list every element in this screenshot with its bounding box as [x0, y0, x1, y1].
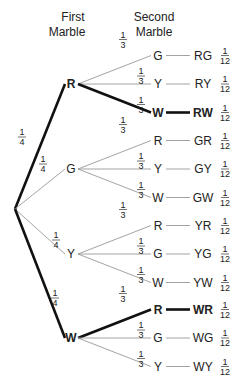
- outcome-prob-gr-numerator: 1: [222, 131, 227, 141]
- outcome-prob-rw-numerator: 1: [222, 103, 227, 113]
- second-prob-ry-numerator: 1: [138, 66, 143, 76]
- second-prob-rg-numerator: 1: [120, 30, 125, 40]
- second-node-rw: W: [152, 106, 164, 120]
- second-prob-ry-denominator: 3: [138, 76, 143, 86]
- outcome-prob-gr-denominator: 12: [220, 141, 230, 151]
- first-prob-2-denominator: 4: [53, 240, 58, 250]
- second-node-wy: Y: [154, 360, 162, 374]
- branch-first-w: [15, 209, 65, 338]
- first-prob-1-numerator: 1: [40, 154, 45, 164]
- first-prob-1-denominator: 4: [40, 164, 45, 174]
- outcome-prob-ry-denominator: 12: [220, 84, 230, 94]
- second-prob-gr-numerator: 1: [120, 115, 125, 125]
- second-prob-yr-denominator: 3: [120, 210, 125, 220]
- second-prob-yr-numerator: 1: [120, 200, 125, 210]
- outcome-prob-ry-numerator: 1: [222, 74, 227, 84]
- second-node-wr: R: [154, 303, 163, 317]
- second-prob-yg-numerator: 1: [138, 236, 143, 246]
- second-prob-gr-denominator: 3: [120, 125, 125, 135]
- second-prob-yg-denominator: 3: [138, 246, 143, 256]
- second-node-rg: G: [153, 49, 162, 63]
- outcome-prob-yg-numerator: 1: [222, 244, 227, 254]
- outcome-rg: RG: [194, 49, 212, 63]
- labels: R14GRG11213YRY11213WRW11213G14RGR11213YG…: [18, 30, 230, 377]
- first-node-y: Y: [67, 247, 75, 261]
- second-node-yg: G: [153, 247, 162, 261]
- first-prob-0-denominator: 4: [19, 137, 24, 147]
- second-prob-yw-denominator: 3: [138, 275, 143, 285]
- outcome-prob-gy-denominator: 12: [220, 169, 230, 179]
- outcome-wg: WG: [193, 331, 214, 345]
- first-prob-3-numerator: 1: [52, 288, 57, 298]
- outcome-prob-yw-denominator: 12: [220, 283, 230, 293]
- second-node-ry: Y: [154, 77, 162, 91]
- first-node-g: G: [66, 162, 75, 176]
- outcome-prob-gw-denominator: 12: [220, 198, 230, 208]
- outcome-wr: WR: [193, 303, 213, 317]
- probability-tree-diagram: First Marble Second Marble R14GRG11213YR…: [0, 0, 238, 388]
- outcome-yr: YR: [195, 219, 212, 233]
- second-prob-wg-numerator: 1: [138, 320, 143, 330]
- header-first-line1: First: [61, 10, 85, 24]
- outcome-prob-wy-numerator: 1: [222, 357, 227, 367]
- second-prob-gw-denominator: 3: [138, 190, 143, 200]
- outcome-gy: GY: [194, 162, 211, 176]
- second-prob-yw-numerator: 1: [138, 265, 143, 275]
- outcome-yg: YG: [194, 247, 211, 261]
- first-prob-3-denominator: 4: [52, 298, 57, 308]
- header-second-line1: Second: [134, 10, 175, 24]
- second-prob-rg-denominator: 3: [120, 40, 125, 50]
- first-prob-0-numerator: 1: [19, 127, 24, 137]
- second-prob-wy-numerator: 1: [138, 349, 143, 359]
- second-prob-wy-denominator: 3: [138, 359, 143, 369]
- outcome-yw: YW: [193, 276, 213, 290]
- second-node-gy: Y: [154, 162, 162, 176]
- outcome-gw: GW: [193, 191, 214, 205]
- outcome-rw: RW: [193, 106, 213, 120]
- outcome-prob-yw-numerator: 1: [222, 273, 227, 283]
- second-prob-rw-denominator: 3: [138, 105, 143, 115]
- outcome-prob-wy-denominator: 12: [220, 367, 230, 377]
- second-prob-gy-numerator: 1: [138, 151, 143, 161]
- second-prob-gw-numerator: 1: [138, 180, 143, 190]
- second-prob-rw-numerator: 1: [138, 95, 143, 105]
- second-prob-gy-denominator: 3: [138, 161, 143, 171]
- first-node-r: R: [67, 77, 76, 91]
- outcome-ry: RY: [195, 77, 211, 91]
- outcome-prob-wr-numerator: 1: [222, 300, 227, 310]
- outcome-gr: GR: [194, 134, 212, 148]
- second-node-wg: G: [153, 331, 162, 345]
- second-prob-wg-denominator: 3: [138, 330, 143, 340]
- header-first-line2: Marble: [49, 25, 86, 39]
- second-node-gr: R: [154, 134, 163, 148]
- first-node-w: W: [65, 331, 77, 345]
- first-prob-2-numerator: 1: [53, 230, 58, 240]
- outcome-prob-gw-numerator: 1: [222, 188, 227, 198]
- outcome-prob-rw-denominator: 12: [220, 113, 230, 123]
- header-second-line2: Marble: [136, 25, 173, 39]
- outcome-prob-rg-denominator: 12: [220, 56, 230, 66]
- branches: [15, 56, 190, 367]
- outcome-prob-wg-denominator: 12: [220, 338, 230, 348]
- outcome-prob-yr-numerator: 1: [222, 216, 227, 226]
- outcome-prob-yg-denominator: 12: [220, 254, 230, 264]
- outcome-prob-gy-numerator: 1: [222, 159, 227, 169]
- outcome-prob-rg-numerator: 1: [222, 46, 227, 56]
- second-node-yw: W: [152, 276, 164, 290]
- second-prob-wr-denominator: 3: [120, 294, 125, 304]
- outcome-wy: WY: [193, 360, 212, 374]
- outcome-prob-yr-denominator: 12: [220, 226, 230, 236]
- second-prob-wr-numerator: 1: [120, 284, 125, 294]
- second-node-gw: W: [152, 191, 164, 205]
- outcome-prob-wg-numerator: 1: [222, 328, 227, 338]
- second-node-yr: R: [154, 219, 163, 233]
- outcome-prob-wr-denominator: 12: [220, 310, 230, 320]
